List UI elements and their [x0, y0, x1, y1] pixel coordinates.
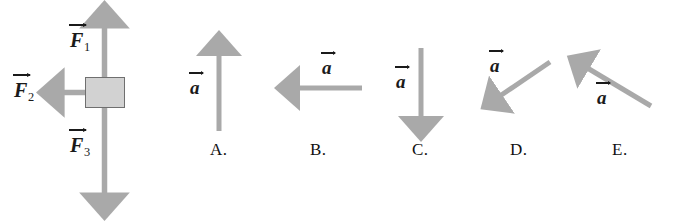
option-d-vector-label: a	[490, 56, 500, 75]
option-e-letter: E.	[612, 140, 628, 160]
option-e[interactable]: a E.	[575, 0, 676, 221]
option-b-arrow	[280, 0, 395, 180]
option-a-letter: A.	[210, 140, 228, 160]
option-e-vector-label: a	[597, 88, 607, 107]
force-label-F3: F3	[70, 135, 90, 158]
option-b-vector-label: a	[322, 58, 332, 77]
option-b-letter: B.	[310, 140, 327, 160]
option-a-vector-symbol: a	[190, 77, 200, 98]
force-label-F3-subscript: 3	[84, 145, 90, 159]
free-body-diagram: F1 F2 F3	[0, 0, 180, 221]
option-d-letter: D.	[510, 140, 528, 160]
force-label-F1: F1	[70, 30, 90, 53]
force-label-F2: F2	[14, 80, 34, 103]
force-label-F2-subscript: 2	[28, 90, 34, 104]
force-label-F1-subscript: 1	[84, 40, 90, 54]
option-c[interactable]: a C.	[395, 0, 490, 221]
option-d-arrow	[480, 0, 580, 180]
option-c-vector-symbol: a	[396, 71, 406, 92]
mass-block	[85, 77, 125, 108]
option-b[interactable]: a B.	[280, 0, 395, 221]
option-c-arrow	[395, 0, 490, 180]
option-d-vector-symbol: a	[490, 55, 500, 76]
figure-canvas: F1 F2 F3 a A.	[0, 0, 676, 221]
option-a-vector-label: a	[190, 78, 200, 97]
option-c-letter: C.	[412, 140, 429, 160]
option-a[interactable]: a A.	[180, 0, 280, 221]
option-b-vector-symbol: a	[322, 57, 332, 78]
option-d[interactable]: a D.	[480, 0, 580, 221]
option-e-vector-symbol: a	[597, 87, 607, 108]
option-c-vector-label: a	[396, 72, 406, 91]
